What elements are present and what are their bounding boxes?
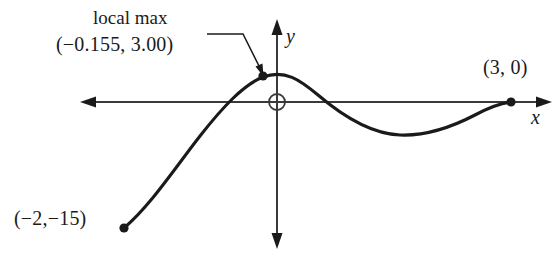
annotation-left-endpoint-coords: (−2,−15) [14, 208, 86, 228]
point-marker-right-root [506, 97, 515, 106]
y-axis-top-arrowhead [272, 19, 283, 35]
x-axis-label: x [531, 107, 540, 127]
y-axis-bottom-arrowhead [272, 233, 283, 249]
local-max-leader-line [207, 34, 264, 77]
graph-figure: local max (−0.155, 3.00) (−2,−15) (3, 0)… [0, 0, 560, 256]
annotation-right-root-coords: (3, 0) [483, 57, 528, 77]
annotation-local-max-coords: (−0.155, 3.00) [56, 34, 173, 54]
polynomial-curve [124, 74, 511, 228]
y-axis [272, 19, 283, 249]
y-axis-label: y [286, 26, 295, 46]
x-axis [80, 97, 552, 108]
point-marker-left-endpoint [119, 223, 128, 232]
point-marker-local-max [258, 71, 267, 80]
x-axis-left-arrowhead [80, 97, 96, 108]
annotation-local-max-title: local max [93, 8, 167, 27]
